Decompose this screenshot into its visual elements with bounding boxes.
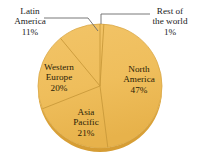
slice-label-western-europe-line2: Europe <box>30 72 88 82</box>
slice-label-north-america-line1: North <box>112 64 166 74</box>
slice-label-north-america: North America 47% <box>112 64 166 95</box>
slice-label-asia-pacific-line2: Pacific <box>60 117 112 127</box>
slice-callout-latin-america: Latin America 11% <box>2 6 58 37</box>
slice-callout-latin-america-percent: 11% <box>2 27 58 37</box>
slice-callout-latin-america-line1: Latin <box>2 6 58 16</box>
slice-label-asia-pacific: Asia Pacific 21% <box>60 107 112 138</box>
slice-callout-rest-of-world: Rest of the world 1% <box>142 6 198 37</box>
slice-label-western-europe: Western Europe 20% <box>30 62 88 93</box>
slice-callout-latin-america-line2: America <box>2 16 58 26</box>
slice-label-asia-pacific-percent: 21% <box>60 128 112 138</box>
slice-callout-rest-of-world-line1: Rest of <box>142 6 198 16</box>
slice-label-western-europe-percent: 20% <box>30 83 88 93</box>
slice-callout-rest-of-world-line2: the world <box>142 16 198 26</box>
slice-label-north-america-line2: America <box>112 74 166 84</box>
slice-label-asia-pacific-line1: Asia <box>60 107 112 117</box>
slice-label-north-america-percent: 47% <box>112 85 166 95</box>
pie-chart-figure: Latin America 11% Rest of the world 1% N… <box>0 0 200 165</box>
slice-callout-rest-of-world-percent: 1% <box>142 27 198 37</box>
slice-label-western-europe-line1: Western <box>30 62 88 72</box>
